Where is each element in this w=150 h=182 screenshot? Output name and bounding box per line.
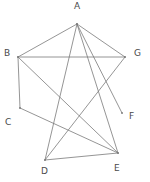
edge-layer — [18, 24, 125, 160]
node-layer — [17, 23, 126, 161]
graph-node-G — [124, 56, 126, 58]
graph-edge-D-E — [45, 153, 118, 160]
graph-node-B — [17, 56, 19, 58]
graph-edge-A-B — [18, 24, 77, 57]
node-label-C: C — [5, 118, 11, 127]
graph-edge-C-E — [20, 108, 118, 153]
node-label-G: G — [134, 49, 141, 58]
node-label-E: E — [114, 164, 120, 173]
node-label-A: A — [74, 2, 80, 11]
node-label-F: F — [129, 112, 134, 121]
graph-node-C — [19, 107, 21, 109]
node-label-D: D — [41, 167, 48, 176]
graph-edge-A-G — [77, 24, 125, 57]
graph-node-F — [121, 112, 123, 114]
graph-edge-A-F — [77, 24, 122, 113]
graph-node-D — [44, 159, 46, 161]
graph-node-A — [76, 23, 78, 25]
graph-edge-B-C — [18, 57, 20, 108]
graph-node-E — [117, 152, 119, 154]
node-label-B: B — [4, 49, 10, 58]
graph-canvas — [0, 0, 150, 182]
graph-diagram: ABCDEFG — [0, 0, 150, 182]
